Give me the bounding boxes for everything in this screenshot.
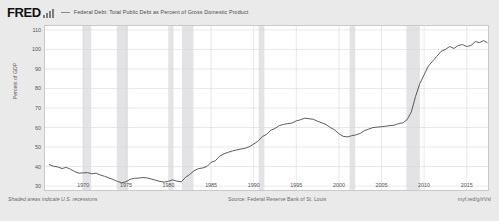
x-tick-label: 1995 xyxy=(290,182,302,188)
x-tick-label: 2015 xyxy=(461,182,473,188)
chart-header: FRED Federal Debt: Total Public Debt as … xyxy=(0,0,499,24)
chart-canvas xyxy=(45,26,488,190)
x-tick-label: 1975 xyxy=(120,182,132,188)
y-tick-label: 70 xyxy=(1,105,41,111)
y-tick-label: 90 xyxy=(1,66,41,72)
grid-lines xyxy=(45,26,488,190)
x-tick-label: 2005 xyxy=(376,182,388,188)
data-series-lines xyxy=(49,41,487,183)
x-tick-label: 1970 xyxy=(77,182,89,188)
chart-legend: Federal Debt: Total Public Debt as Perce… xyxy=(61,9,248,15)
x-tick-label: 1990 xyxy=(248,182,260,188)
x-tick-label: 1980 xyxy=(163,182,175,188)
y-tick-label: 60 xyxy=(1,125,41,131)
y-tick-label: 50 xyxy=(1,144,41,150)
legend-line-marker xyxy=(61,12,70,13)
chart-footer: Shaded areas indicate U.S. recessions So… xyxy=(0,196,499,208)
fred-short-url[interactable]: myf.red/g/irVsl xyxy=(458,196,491,202)
fred-chart-card: FRED Federal Debt: Total Public Debt as … xyxy=(0,0,499,221)
y-tick-label: 40 xyxy=(1,164,41,170)
x-tick-label: 1985 xyxy=(205,182,217,188)
x-tick-label: 2010 xyxy=(418,182,430,188)
x-axis-ticks: 1970197519801985199019952000200520102015 xyxy=(44,182,489,192)
x-tick-label: 2000 xyxy=(333,182,345,188)
recession-footnote: Shaded areas indicate U.S. recessions xyxy=(8,196,97,202)
y-tick-label: 110 xyxy=(1,27,41,33)
y-tick-label: 80 xyxy=(1,85,41,91)
source-footnote: Source: Federal Reserve Bank of St. Loui… xyxy=(228,196,326,202)
legend-series-label: Federal Debt: Total Public Debt as Perce… xyxy=(74,9,248,15)
y-tick-label: 30 xyxy=(1,183,41,189)
y-tick-label: 100 xyxy=(1,46,41,52)
bar-chart-glyph xyxy=(43,9,54,18)
plot-area xyxy=(44,25,489,191)
y-axis-ticks: 11010090807060504030 xyxy=(0,0,41,221)
y-axis-title: Percent of GDP xyxy=(12,46,18,116)
